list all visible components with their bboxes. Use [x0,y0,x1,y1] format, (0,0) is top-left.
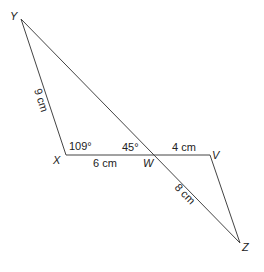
geometry-diagram: Y X W V Z 9 cm 6 cm 4 cm 8 cm 109° 45° [0,0,264,272]
vertex-label-Y: Y [10,10,18,22]
vertex-label-V: V [212,149,221,161]
segment-VZ [210,155,240,243]
angle-label-YXW: 109° [69,140,92,152]
angle-label-YWX: 45° [122,141,139,153]
length-label-WV: 4 cm [172,141,196,153]
length-label-YX: 9 cm [32,87,51,113]
vertex-label-Z: Z [241,241,250,253]
vertex-label-W: W [143,157,155,169]
length-label-XW: 6 cm [93,157,117,169]
length-label-WZ: 8 cm [173,181,198,206]
segment-YZ [21,19,240,243]
vertex-label-X: X [52,154,61,166]
